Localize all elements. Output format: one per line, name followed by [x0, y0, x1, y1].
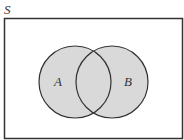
- venn-diagram: S A B: [0, 0, 184, 140]
- universe-label: S: [4, 2, 11, 17]
- set-a-label: A: [53, 74, 62, 89]
- set-b-label: B: [124, 74, 132, 89]
